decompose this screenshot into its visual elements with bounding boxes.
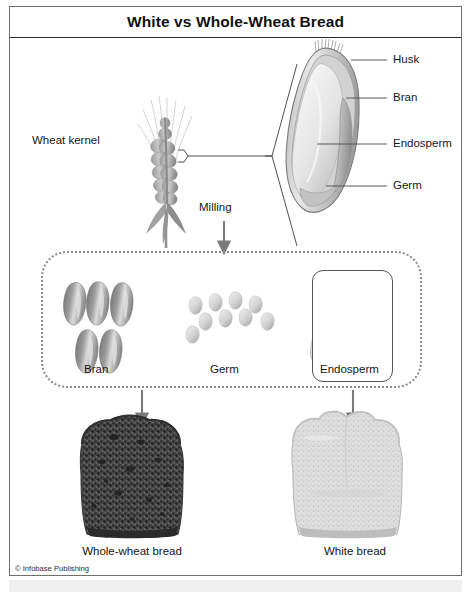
white-bread-label: White bread [295,545,415,557]
kernel-leader-lines [317,60,387,186]
white-bread-image [292,412,403,539]
diagram-canvas: Wheat kernel Husk Bran Endosperm Germ Mi… [10,38,461,577]
milling-label: Milling [199,201,232,213]
figure-title-bar: White vs Whole-Wheat Bread [10,7,461,38]
kernel-cross-section [286,39,359,212]
milled-germ-label: Germ [210,363,239,375]
wheat-kernel-label: Wheat kernel [32,134,100,146]
whole-wheat-bread-image [80,416,183,539]
magnify-connector [178,64,297,246]
milled-bran-label: Bran [84,363,108,375]
husk-label: Husk [393,53,419,65]
milled-endosperm-label: Endosperm [320,363,379,375]
figure-frame: White vs Whole-Wheat Bread [9,6,462,576]
whole-wheat-bread-label: Whole-wheat bread [62,545,202,557]
page-title: White vs Whole-Wheat Bread [127,13,344,31]
copyright-notice: © Infobase Publishing [15,564,89,573]
wheat-stalk-illustration [138,96,192,248]
bottom-strip [9,580,462,592]
bran-label: Bran [393,91,417,103]
endosperm-label: Endosperm [393,137,452,149]
germ-label: Germ [393,179,422,191]
product-arrows [142,390,353,420]
